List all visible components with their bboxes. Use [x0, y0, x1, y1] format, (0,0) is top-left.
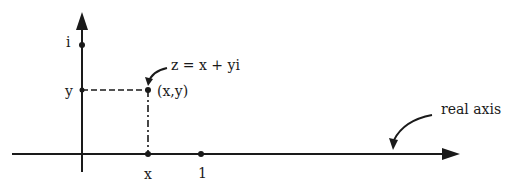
real-axis-pointer-arrowhead-icon	[389, 138, 398, 150]
real-axis-pointer-arrow-icon	[394, 115, 432, 140]
label-one-tick: 1	[198, 166, 207, 180]
complex-plane-diagram: i y (x,y) z = x + yi x 1 real axis	[0, 0, 510, 185]
diagram-graphics	[0, 0, 510, 185]
formula-pointer-arrowhead-icon	[145, 77, 153, 86]
point-one-dot	[198, 151, 204, 157]
label-formula: z = x + yi	[171, 58, 240, 72]
label-point: (x,y)	[157, 84, 188, 98]
label-x-tick: x	[144, 167, 152, 181]
point-y-dot	[80, 88, 85, 93]
real-axis-arrowhead-icon	[442, 148, 460, 160]
label-real-axis: real axis	[441, 102, 501, 116]
point-z-dot	[145, 87, 151, 93]
imaginary-axis-arrowhead-icon	[76, 12, 88, 30]
label-imag-unit: i	[66, 35, 70, 49]
point-x-dot	[145, 151, 151, 157]
point-i-dot	[79, 42, 85, 48]
label-y-tick: y	[65, 84, 73, 98]
